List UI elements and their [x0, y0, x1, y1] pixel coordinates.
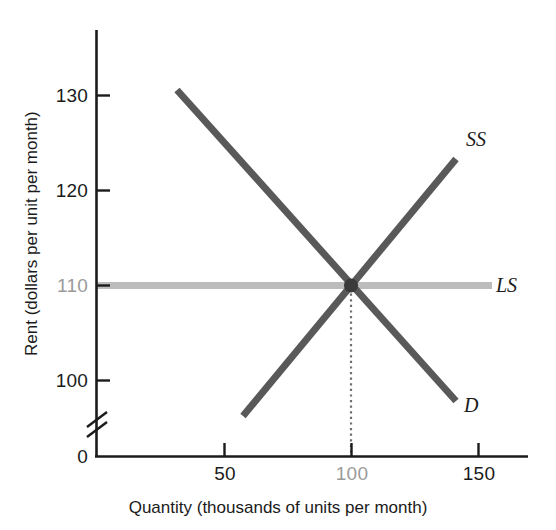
y-tick-label-100: 100	[36, 370, 88, 392]
demand-curve	[177, 90, 456, 401]
y-tick-label-130: 130	[36, 85, 88, 107]
y-axis-title: Rent (dollars per unit per month)	[22, 111, 42, 356]
equilibrium-point	[344, 279, 358, 293]
curve-label-ss: SS	[466, 128, 486, 151]
x-tick-label-100: 100	[321, 463, 383, 485]
x-tick-label-150: 150	[448, 463, 510, 485]
supply-demand-chart: 130 120 110 100 0 50 100 150 Rent (dolla…	[0, 0, 556, 530]
y-tick-label-110: 110	[36, 275, 88, 297]
y-tick-label-120: 120	[36, 180, 88, 202]
curve-label-ls: LS	[496, 274, 517, 297]
x-tick-label-50: 50	[194, 463, 256, 485]
y-tick-label-0: 0	[36, 446, 88, 468]
x-axis-title: Quantity (thousands of units per month)	[0, 498, 556, 518]
curve-label-d: D	[464, 394, 478, 417]
